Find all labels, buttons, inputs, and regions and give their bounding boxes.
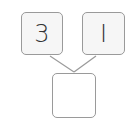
part-right-value: I <box>100 20 107 48</box>
part-left-value: 3 <box>34 20 49 48</box>
part-box-right: I <box>82 12 125 55</box>
whole-box[interactable] <box>52 73 96 118</box>
part-box-left: 3 <box>21 12 63 55</box>
left-connector <box>50 56 74 72</box>
right-connector <box>74 56 96 72</box>
